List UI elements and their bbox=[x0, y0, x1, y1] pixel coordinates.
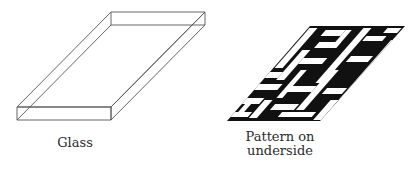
glass-slab-drawing bbox=[17, 12, 205, 120]
glass-label: Glass bbox=[40, 136, 110, 150]
pattern-label-line1: Pattern on bbox=[225, 130, 335, 144]
underside-pattern-drawing bbox=[209, 26, 407, 121]
pattern-label: Pattern on underside bbox=[225, 130, 335, 158]
pattern-label-line2: underside bbox=[225, 144, 335, 158]
